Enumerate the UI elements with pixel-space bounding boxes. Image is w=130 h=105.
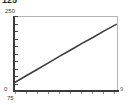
x-tick-mark [70, 92, 71, 94]
x-tick-mark [81, 92, 82, 94]
x-tick-mark [26, 92, 27, 94]
x-tick-mark [103, 92, 104, 94]
y-axis-min-label: 0 [4, 86, 7, 93]
x-tick-mark [59, 92, 60, 94]
series-line [14, 25, 116, 83]
chart-figure: 125 250 0 75 9 [0, 0, 130, 105]
x-axis-max-label: 9 [120, 86, 123, 93]
x-tick-mark [48, 92, 49, 94]
y-axis-max-label: 250 [5, 8, 15, 15]
x-tick-mark [114, 92, 115, 94]
x-tick-mark [15, 92, 16, 94]
data-series-svg [13, 16, 119, 92]
x-tick-mark [37, 92, 38, 94]
x-axis-min-label: 75 [7, 95, 14, 102]
figure-top-label: 125 [2, 0, 17, 5]
x-tick-mark [92, 92, 93, 94]
